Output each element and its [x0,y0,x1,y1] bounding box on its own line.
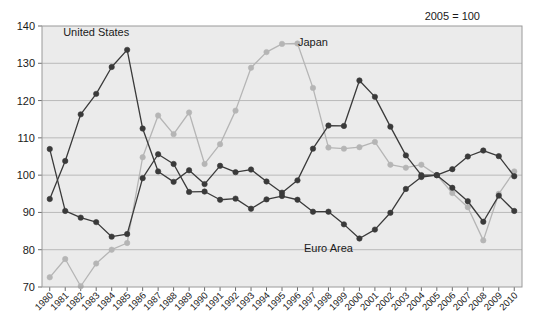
data-point [403,165,408,170]
data-point [450,185,455,190]
data-point [140,126,145,131]
data-point [465,199,470,204]
y-axis-tick-label: 80 [23,244,35,256]
data-point [341,146,346,151]
series-label-united-states: United States [63,26,130,38]
data-point [47,146,52,151]
data-point [78,215,83,220]
data-point [93,91,98,96]
data-point [264,197,269,202]
data-point [217,141,222,146]
data-point [233,196,238,201]
line-chart: 708090100110120130140 198019811982198319… [0,0,540,333]
data-point [171,161,176,166]
data-point [310,146,315,151]
data-point [109,234,114,239]
data-point [186,168,191,173]
data-point [78,112,83,117]
data-point [63,208,68,213]
data-point [171,179,176,184]
data-point [264,49,269,54]
data-point [310,85,315,90]
data-point [388,210,393,215]
data-point [124,231,129,236]
data-point [419,174,424,179]
data-point [248,65,253,70]
note-index-base: 2005 = 100 [425,10,480,22]
data-point [47,196,52,201]
data-point [372,139,377,144]
chart-container: 708090100110120130140 198019811982198319… [0,0,540,333]
data-point [93,261,98,266]
data-point [264,179,269,184]
data-point [481,238,486,243]
data-point [326,145,331,150]
data-point [63,256,68,261]
y-axis-tick-label: 70 [23,281,35,293]
series-label-euro-area: Euro Area [304,242,354,254]
data-point [403,186,408,191]
data-point [481,148,486,153]
data-point [233,108,238,113]
y-axis-tick-label: 130 [17,57,35,69]
data-point [202,181,207,186]
y-axis-tick-label: 140 [17,20,35,32]
y-axis-tick-label: 100 [17,169,35,181]
data-point [450,190,455,195]
data-point [155,152,160,157]
data-point [496,193,501,198]
data-point [171,131,176,136]
data-point [140,175,145,180]
data-point [341,222,346,227]
data-point [155,113,160,118]
data-point [465,154,470,159]
data-point [248,167,253,172]
data-point [481,219,486,224]
data-point [155,169,160,174]
data-point [310,209,315,214]
data-point [78,284,83,289]
data-point [279,41,284,46]
data-point [357,78,362,83]
data-point [434,172,439,177]
data-point [326,209,331,214]
data-point [295,197,300,202]
data-point [109,64,114,69]
data-point [202,161,207,166]
data-point [202,189,207,194]
data-point [186,110,191,115]
data-point [124,47,129,52]
data-point [217,197,222,202]
data-point [357,144,362,149]
data-point [512,208,517,213]
data-point [63,158,68,163]
data-point [326,123,331,128]
data-point [295,178,300,183]
y-axis-tick-label: 110 [17,132,35,144]
data-point [388,124,393,129]
data-point [217,163,222,168]
data-point [512,174,517,179]
data-point [140,155,145,160]
y-axis-tick-label: 120 [17,95,35,107]
data-point [124,240,129,245]
data-point [372,227,377,232]
data-point [279,193,284,198]
data-point [248,206,253,211]
data-point [47,275,52,280]
data-point [450,166,455,171]
y-axis-tick-label: 90 [23,206,35,218]
data-point [403,153,408,158]
data-point [465,205,470,210]
data-point [388,162,393,167]
data-point [357,236,362,241]
data-point [233,169,238,174]
data-point [93,219,98,224]
data-point [372,94,377,99]
series-label-japan: Japan [298,36,328,48]
data-point [109,247,114,252]
data-point [496,153,501,158]
data-point [419,162,424,167]
data-point [341,123,346,128]
data-point [186,189,191,194]
